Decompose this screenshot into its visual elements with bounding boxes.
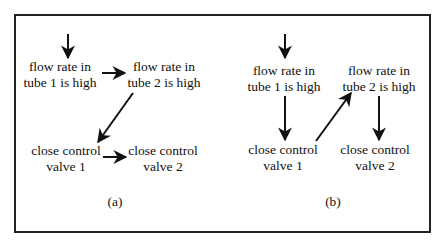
node-b-close-valve2: close control valve 2 [340,142,409,174]
caption-b: (b) [325,194,341,210]
arrows-layer [0,0,442,250]
node-a-flow-rate-tube1: flow rate in tube 1 is high [23,59,96,91]
node-b-flow-rate-tube1: flow rate in tube 1 is high [247,63,320,95]
node-a-close-valve2: close control valve 2 [128,143,197,175]
arrow-a-flow2-to-valve1 [98,93,133,142]
node-b-close-valve1: close control valve 1 [248,142,317,174]
arrow-b-valve1-to-flow2 [316,93,351,141]
node-b-flow-rate-tube2: flow rate in tube 2 is high [342,63,415,95]
node-a-flow-rate-tube2: flow rate in tube 2 is high [127,59,200,91]
node-a-close-valve1: close control valve 1 [31,143,100,175]
caption-a: (a) [108,194,123,210]
